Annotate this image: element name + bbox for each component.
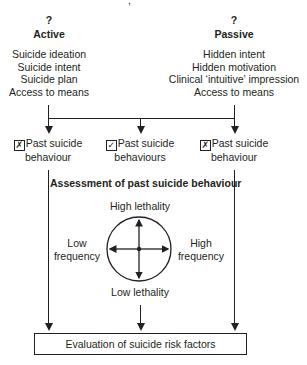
lethality-frequency-compass xyxy=(0,0,307,365)
evaluation-box: Evaluation of suicide risk factors xyxy=(34,333,247,355)
